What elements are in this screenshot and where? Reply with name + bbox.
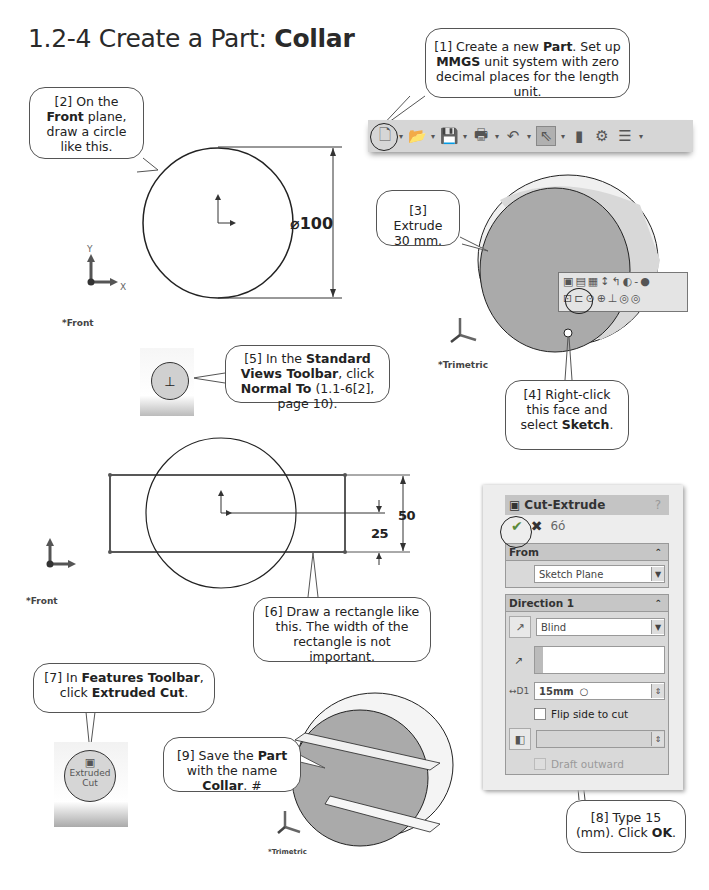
chevron-down-icon: ▼ [651,620,664,634]
chevron-down-icon[interactable]: ▾ [561,132,565,141]
axis-x-label: X [120,282,126,292]
callout-step-8: [8] Type 15 (mm). Click OK. [566,800,686,853]
extruded-cut-button[interactable]: ▣ Extruded Cut [64,750,116,802]
chevron-down-icon[interactable]: ▾ [399,132,403,141]
select-arrow-icon[interactable]: ⇖ [536,126,556,146]
view-label-front-1: *Front [62,318,94,328]
end-condition-select[interactable]: Blind▼ [536,618,665,636]
axis-triad-trimetric-2 [278,811,300,833]
slotted-collar-model [292,693,453,846]
view-label-trimetric-1: *Trimetric [438,360,488,370]
options-icon[interactable]: ⚙ [593,127,611,145]
axis-y-label: Y [87,244,93,254]
flip-side-checkbox[interactable] [534,708,546,720]
callout-step-2: [2] On the Front plane, draw a circle li… [29,87,144,159]
rebuild-traffic-light-icon[interactable]: ▮ [570,127,588,145]
direction1-section-header[interactable]: Direction 1⌃ [506,595,668,612]
highlight-circle-sketch [565,288,593,314]
undo-icon[interactable]: ↶ [504,127,522,145]
collapse-icon: ⌃ [654,547,662,557]
callout-step-3: [3] Extrude 30 mm. [376,190,460,246]
chevron-down-icon[interactable]: ▾ [527,132,531,141]
draft-outward-checkbox[interactable] [534,758,546,770]
diameter-dimension: ⌀100 [290,214,333,233]
normal-to-button[interactable]: ⊥ [151,362,189,400]
view-label-trimetric-2: *Trimetric [268,848,307,856]
sketch-rectangle-view [108,438,410,597]
from-select[interactable]: Sketch Plane▼ [534,565,665,583]
chevron-down-icon: ▼ [651,567,664,581]
highlight-circle-ok [500,516,532,548]
preview-glasses-icon[interactable]: 6ó [550,519,565,533]
help-icon[interactable]: ? [655,498,661,512]
spin-icon[interactable]: ⇕ [651,732,664,746]
highlight-circle-new [370,123,398,151]
direction-vector-field[interactable] [534,646,665,674]
chevron-down-icon[interactable]: ▾ [463,132,467,141]
depth-d1-icon: ↔D1 [509,686,529,696]
chevron-down-icon[interactable]: ▾ [495,132,499,141]
callout-step-9: [9] Save the Part with the name Collar. … [163,737,301,792]
file-properties-icon[interactable]: ☰ [616,127,634,145]
extruded-cut-icon: ▣ [65,758,115,768]
cut-extrude-icon: ▣ [509,498,520,512]
pm-title-bar: ▣ Cut-Extrude ? [505,495,669,515]
callout-step-7: [7] In Features Toolbar, click Extruded … [33,663,215,713]
print-icon[interactable]: 🖶 [472,127,490,145]
collapse-icon: ⌃ [654,598,662,608]
height-dimension: 50 [398,508,415,523]
axis-triad-trimetric-1 [451,318,476,342]
from-section: From⌃ Sketch Plane▼ [505,543,669,588]
normal-to-icon: ⊥ [164,374,175,389]
view-label-front-2: *Front [26,596,58,606]
chevron-down-icon[interactable]: ▾ [431,132,435,141]
direction1-section: Direction 1⌃ ↗ Blind▼ ↗ ↔D1 15mm○⇕ Flip … [505,594,669,775]
chevron-down-icon[interactable]: ▾ [639,132,643,141]
offset-dimension: 25 [371,526,388,541]
depth-input[interactable]: 15mm○⇕ [534,682,665,700]
from-section-header[interactable]: From⌃ [506,544,668,561]
cancel-x-icon[interactable]: ✖ [531,518,543,534]
save-disk-icon[interactable]: 💾 [440,127,458,145]
direction-arrow-icon: ↗ [509,654,529,666]
draft-angle-input[interactable]: ⇕ [536,730,665,748]
draft-icon[interactable]: ◧ [509,728,531,750]
callout-step-6: [6] Draw a rectangle like this. The widt… [253,597,431,662]
reverse-direction-icon[interactable]: ↗ [509,616,531,638]
spin-icon[interactable]: ⇕ [651,684,664,698]
axis-triad-front-1 [87,254,118,286]
axis-triad-front-2 [46,538,76,568]
callout-step-1: [1] Create a new Part. Set up MMGS unit … [425,28,630,98]
callout-step-4: [4] Right-click this face and select Ske… [505,380,629,450]
standard-toolbar: 🗋▾ 📂▾ 💾▾ 🖶▾ ↶▾ ⇖▾ ▮ ⚙ ☰▾ [368,120,693,152]
open-folder-icon[interactable]: 📂 [408,127,426,145]
callout-step-5: [5] In the Standard Views Toolbar, click… [225,345,390,403]
